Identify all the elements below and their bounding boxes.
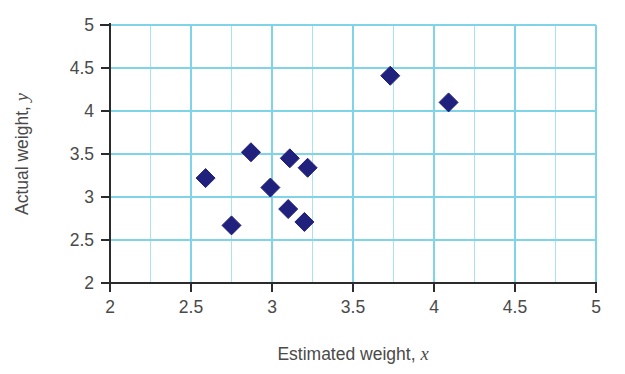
data-point-marker (298, 158, 317, 177)
data-point-marker (439, 93, 458, 112)
axis-spines (101, 24, 596, 292)
y-axis-tick-label: 4 (84, 101, 94, 121)
x-axis-tick-label: 4 (429, 297, 439, 317)
y-axis-tick-label: 3.5 (70, 144, 94, 164)
x-axis-tick-label: 4.5 (503, 297, 527, 317)
y-axis-tick-labels: 22.533.544.55 (70, 15, 95, 293)
y-axis-title: Actual weight, y (12, 92, 32, 215)
x-axis-tick-labels: 22.533.544.55 (105, 297, 601, 317)
data-point-marker (241, 143, 260, 162)
y-axis-tick-label: 4.5 (70, 58, 94, 78)
data-point-marker (295, 212, 314, 231)
x-axis-tick-label: 3.5 (341, 297, 365, 317)
scatter-plot-figure: 22.533.544.55 22.533.544.55 Estimated we… (0, 0, 625, 374)
data-point-marker (280, 149, 299, 168)
data-point-marker (381, 66, 400, 85)
y-axis-tick-label: 2 (84, 273, 94, 293)
x-axis-tick-label: 3 (267, 297, 277, 317)
y-axis-tick-label: 3 (84, 187, 94, 207)
data-point-series (196, 66, 458, 235)
data-point-marker (279, 200, 298, 219)
y-axis-tick-label: 2.5 (70, 230, 94, 250)
chart-canvas: 22.533.544.55 22.533.544.55 Estimated we… (0, 0, 625, 374)
y-axis-tick-label: 5 (84, 15, 94, 35)
x-axis-title: Estimated weight, x (277, 344, 429, 364)
x-axis-tick-label: 2 (105, 297, 115, 317)
data-point-marker (196, 169, 215, 188)
data-point-marker (222, 216, 241, 235)
x-axis-tick-label: 2.5 (179, 297, 203, 317)
data-point-marker (261, 178, 280, 197)
x-axis-tick-label: 5 (591, 297, 601, 317)
